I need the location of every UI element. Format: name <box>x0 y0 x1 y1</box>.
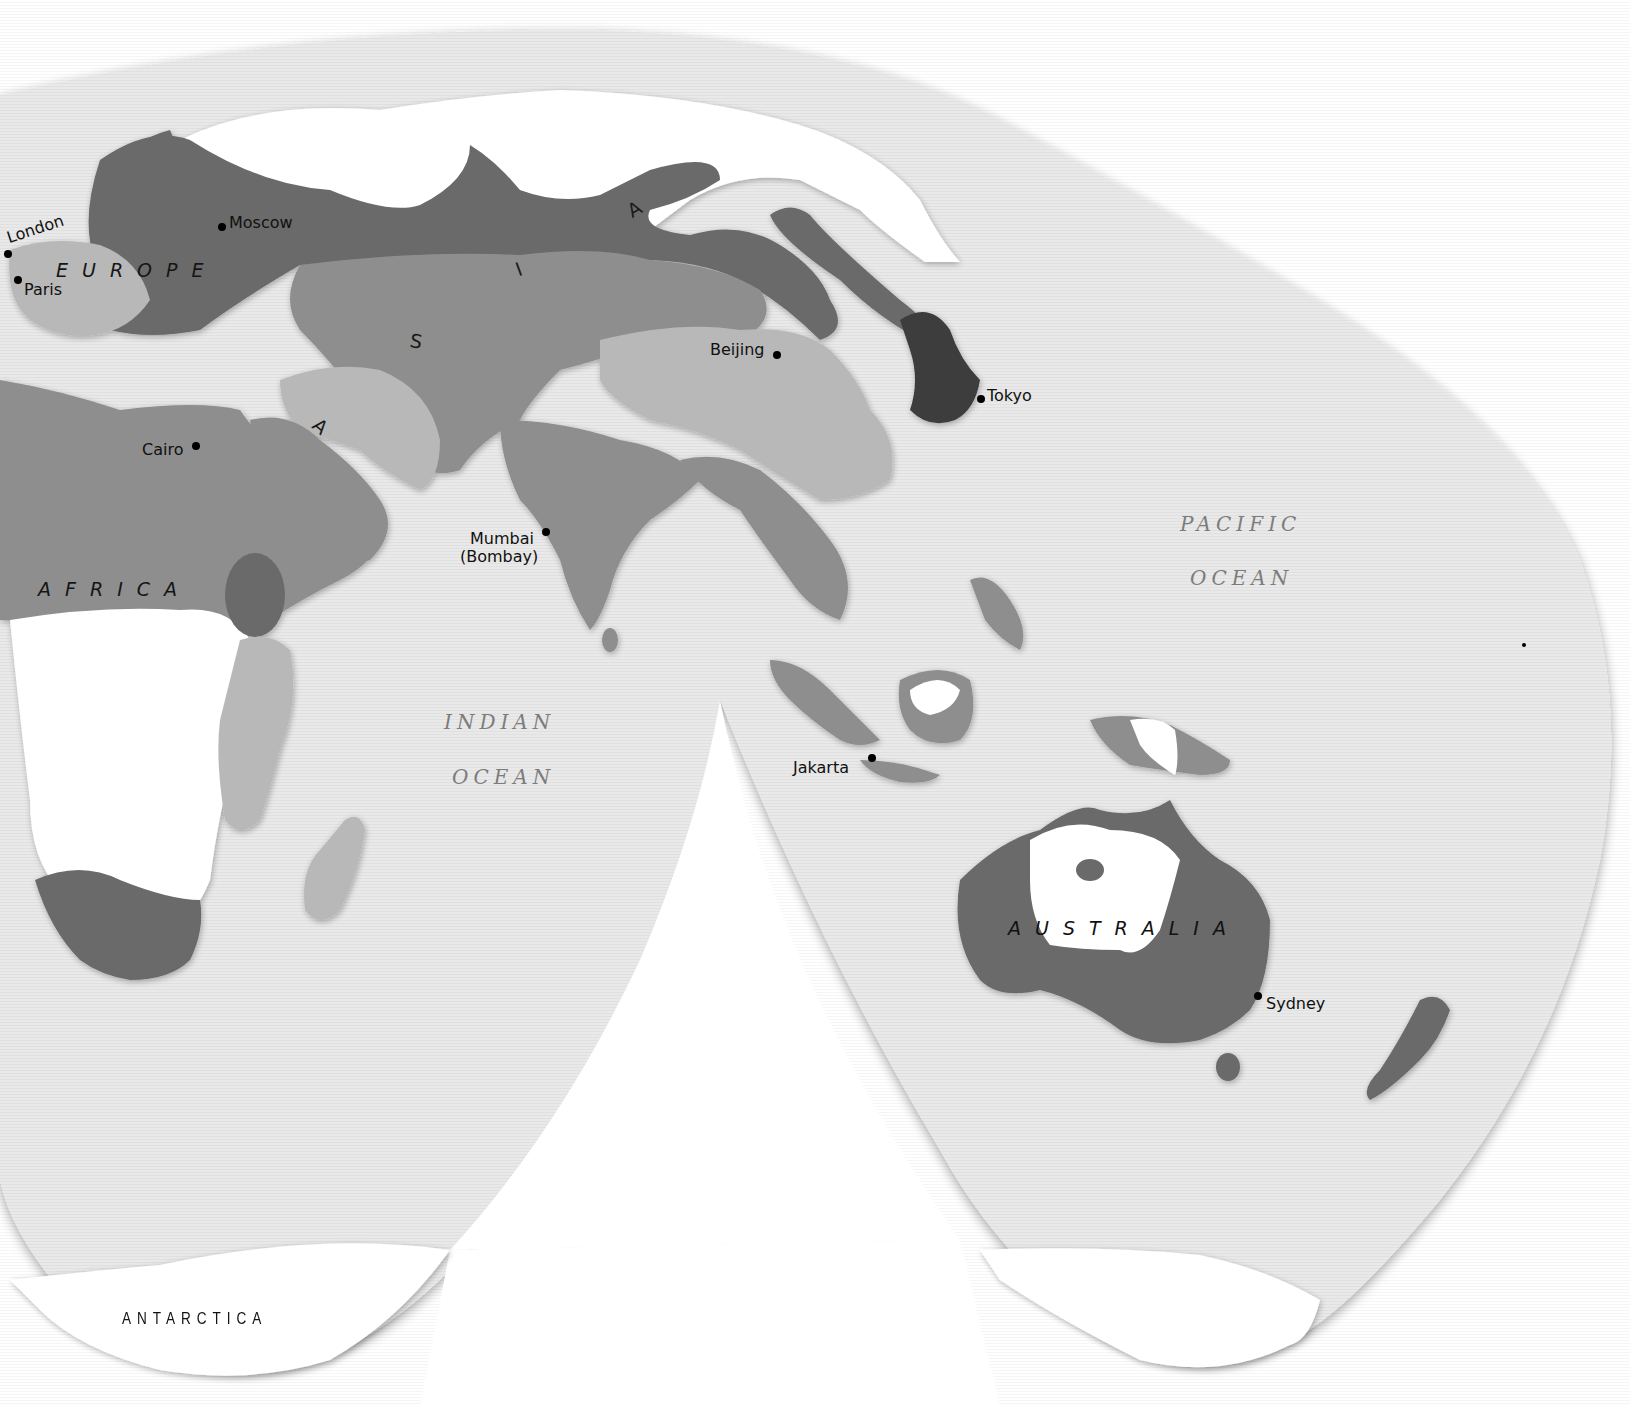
city-label-sydney: Sydney <box>1266 996 1325 1012</box>
city-dot-jakarta <box>868 754 876 762</box>
city-dot-cairo <box>192 442 200 450</box>
city-label-cairo: Cairo <box>142 442 183 458</box>
city-dot-beijing <box>773 351 781 359</box>
city-label-jakarta: Jakarta <box>793 760 849 776</box>
city-dot-sydney <box>1254 992 1262 1000</box>
world-map <box>0 0 1630 1406</box>
continent-label-europe: EUROPE <box>56 259 218 281</box>
city-dot-moscow <box>218 223 226 231</box>
city-label-mumbai: Mumbai <box>470 531 534 547</box>
sri-lanka <box>602 628 618 652</box>
city-label-paris: Paris <box>24 282 62 298</box>
continent-label-australia: AUSTRALIA <box>1008 917 1240 939</box>
continent-label-africa: AFRICA <box>38 578 191 600</box>
ocean-label-indian-2: OCEAN <box>452 765 555 789</box>
city-label-moscow: Moscow <box>229 215 293 231</box>
city-dot-london <box>4 250 12 258</box>
continent-label-antarctica: ANTARCTICA <box>122 1310 267 1328</box>
ethiopian-highlands <box>225 553 285 637</box>
ocean-label-pacific-2: OCEAN <box>1190 566 1293 590</box>
city-label-mumbai-sub: (Bombay) <box>460 549 538 565</box>
pacific-island-dot <box>1522 643 1526 647</box>
ocean-label-indian-1: INDIAN <box>444 710 555 734</box>
tasmania <box>1216 1053 1240 1081</box>
city-label-beijing: Beijing <box>710 342 764 358</box>
city-dot-mumbai <box>542 528 550 536</box>
city-dot-paris <box>14 276 22 284</box>
city-dot-tokyo <box>977 395 985 403</box>
city-label-tokyo: Tokyo <box>987 388 1032 404</box>
ocean-label-pacific-1: PACIFIC <box>1180 512 1301 536</box>
